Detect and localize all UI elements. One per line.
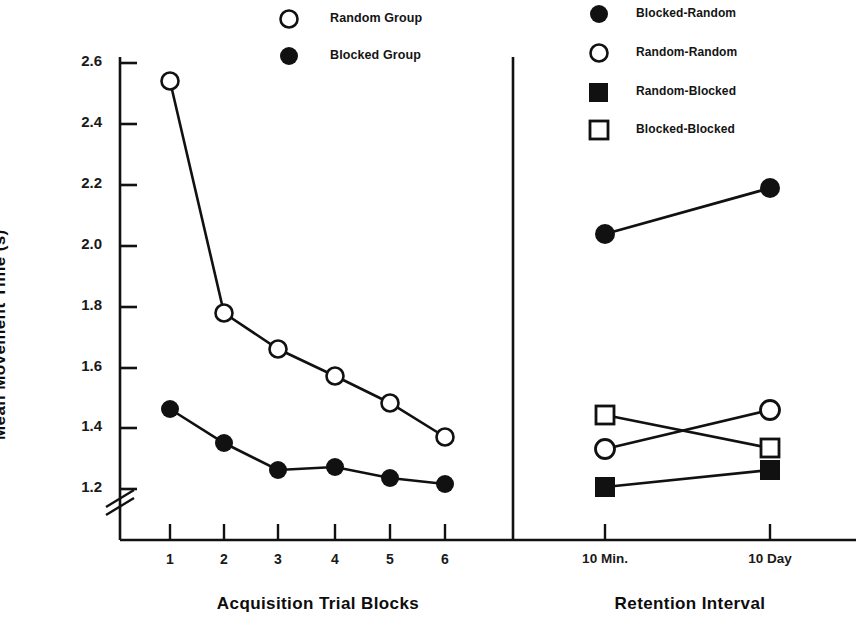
legend-marker-blocked-blocked-icon bbox=[590, 121, 608, 139]
y-axis-ticks bbox=[120, 63, 137, 489]
x-axis-title-retention: Retention Interval bbox=[615, 594, 766, 614]
legend-acquisition-glyphs bbox=[280, 11, 298, 66]
data-point-blocked-4 bbox=[326, 458, 344, 476]
y-tick-label-1-2: 1.2 bbox=[58, 478, 102, 495]
series-random-blocked-line bbox=[605, 470, 770, 487]
series-random-group-line bbox=[170, 81, 445, 437]
data-point-blocked-6 bbox=[436, 475, 454, 493]
series-random-random bbox=[596, 401, 780, 459]
y-tick-label-2-2: 2.2 bbox=[58, 174, 102, 191]
legend-label-random-group: Random Group bbox=[330, 11, 422, 25]
data-point-random-3 bbox=[270, 341, 287, 358]
x-axis-title-acquisition: Acquisition Trial Blocks bbox=[217, 594, 419, 614]
data-point-blocked-random-10day bbox=[760, 178, 780, 198]
legend-marker-random-blocked-icon bbox=[589, 83, 608, 102]
series-blocked-group-line bbox=[170, 409, 445, 484]
x-tick-label-10-day: 10 Day bbox=[748, 551, 792, 566]
x-tick-label-10-min: 10 Min. bbox=[582, 551, 628, 566]
x-tick-label-block-3: 3 bbox=[274, 551, 282, 567]
data-point-random-1 bbox=[162, 73, 179, 90]
data-point-random-2 bbox=[216, 305, 233, 322]
y-tick-label-2-6: 2.6 bbox=[58, 52, 102, 69]
legend-marker-blocked-group-icon bbox=[280, 47, 298, 65]
legend-label-blocked-group: Blocked Group bbox=[330, 48, 421, 62]
legend-marker-random-group-icon bbox=[281, 11, 298, 28]
data-point-blocked-random-10min bbox=[595, 224, 615, 244]
data-point-random-6 bbox=[437, 429, 454, 446]
legend-marker-random-random-icon bbox=[591, 45, 608, 62]
legend-marker-blocked-random-icon bbox=[590, 5, 608, 23]
legend-label-random-blocked: Random-Blocked bbox=[636, 84, 736, 98]
data-point-blocked-3 bbox=[269, 461, 287, 479]
data-point-blocked-blocked-10min bbox=[596, 406, 614, 424]
legend-label-blocked-random: Blocked-Random bbox=[636, 6, 736, 20]
data-point-random-random-10min bbox=[596, 440, 615, 459]
y-axis-title: Mean Movement Time (s) bbox=[0, 229, 10, 440]
data-point-random-5 bbox=[382, 395, 399, 412]
y-tick-label-1-4: 1.4 bbox=[58, 417, 102, 434]
x-tick-label-block-6: 6 bbox=[441, 551, 449, 567]
data-point-random-blocked-10day bbox=[760, 460, 780, 480]
figure-container: Random Group Blocked Group Blocked-Rando… bbox=[0, 0, 864, 637]
x-axis-ticks-retention bbox=[605, 524, 770, 540]
legend-label-blocked-blocked: Blocked-Blocked bbox=[636, 122, 735, 136]
y-tick-label-1-6: 1.6 bbox=[58, 357, 102, 374]
x-tick-label-block-1: 1 bbox=[166, 551, 174, 567]
y-tick-label-2-4: 2.4 bbox=[58, 113, 102, 130]
data-point-random-blocked-10min bbox=[595, 477, 615, 497]
series-blocked-random bbox=[595, 178, 780, 244]
data-point-blocked-1 bbox=[161, 400, 179, 418]
data-point-random-random-10day bbox=[761, 401, 780, 420]
x-axis-ticks-acquisition bbox=[170, 524, 445, 540]
data-point-blocked-5 bbox=[381, 469, 399, 487]
x-tick-label-block-2: 2 bbox=[220, 551, 228, 567]
series-random-group bbox=[162, 73, 454, 446]
y-tick-label-1-8: 1.8 bbox=[58, 296, 102, 313]
data-point-blocked-2 bbox=[215, 434, 233, 452]
legend-label-random-random: Random-Random bbox=[636, 45, 737, 59]
legend-retention-glyphs bbox=[589, 5, 608, 139]
series-blocked-random-line bbox=[605, 188, 770, 234]
x-tick-label-block-4: 4 bbox=[331, 551, 339, 567]
data-point-random-4 bbox=[327, 368, 344, 385]
series-random-blocked bbox=[595, 460, 780, 497]
y-tick-label-2-0: 2.0 bbox=[58, 235, 102, 252]
data-point-blocked-blocked-10day bbox=[761, 439, 779, 457]
x-tick-label-block-5: 5 bbox=[386, 551, 394, 567]
